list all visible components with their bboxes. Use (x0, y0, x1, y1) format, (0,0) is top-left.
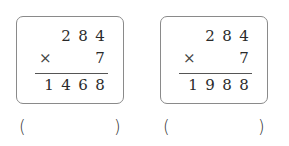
digit: 9 (204, 77, 216, 93)
digit: 8 (221, 77, 233, 93)
digit: 6 (77, 77, 89, 93)
problem-box: 2 8 4 × 7 1 9 8 8 (160, 16, 268, 104)
sum-line (179, 73, 252, 74)
answer-open-paren: ( (163, 117, 170, 137)
answer-close-paren: ) (258, 117, 265, 137)
digit: 8 (238, 77, 250, 93)
digit: 4 (94, 28, 106, 44)
sum-line (35, 73, 108, 74)
digit: 7 (238, 50, 250, 66)
answer-open-paren: ( (19, 117, 26, 137)
multiply-operator: × (183, 50, 196, 66)
digit: 8 (94, 77, 106, 93)
digit: 4 (60, 77, 72, 93)
digit: 7 (94, 50, 106, 66)
digit: 4 (238, 28, 250, 44)
digit: 1 (43, 77, 55, 93)
digit: 1 (187, 77, 199, 93)
digit: 8 (77, 28, 89, 44)
digit: 2 (204, 28, 216, 44)
problem-box: 2 8 4 × 7 1 4 6 8 (16, 16, 124, 104)
digit: 2 (60, 28, 72, 44)
digit: 8 (221, 28, 233, 44)
answer-close-paren: ) (114, 117, 121, 137)
multiply-operator: × (39, 50, 52, 66)
